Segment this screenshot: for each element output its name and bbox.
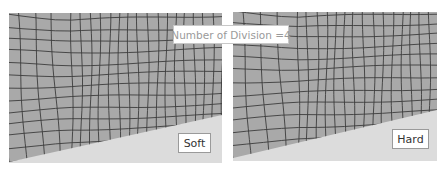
soft-label: Soft (178, 133, 211, 153)
hard-label: Hard (392, 129, 429, 149)
division-count-title: Number of Division =4 (173, 25, 289, 44)
